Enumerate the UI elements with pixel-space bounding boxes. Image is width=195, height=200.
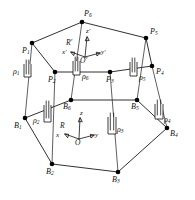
- joint-dot-p6: [80, 20, 85, 25]
- label-axis-x-prime: x': [62, 49, 67, 56]
- label-axis-y: y: [95, 132, 98, 139]
- axis-x-prime-arrow: [71, 52, 75, 55]
- label-node-p1: P1: [22, 47, 30, 56]
- label-axis-z: z: [80, 110, 83, 117]
- joint-dot-p4: [150, 64, 155, 69]
- label-node-p3: P3: [106, 76, 114, 85]
- label-actuator-rho2: ρ2: [33, 117, 40, 126]
- label-frame-r-prime: R': [66, 39, 72, 47]
- base-edge-b2-b3: [52, 164, 118, 172]
- joint-dot-p2: [53, 70, 58, 75]
- joint-dot-b3: [116, 170, 121, 175]
- label-axis-x: x: [56, 132, 59, 139]
- base-frame-axes: [65, 118, 94, 139]
- label-node-p4: P4: [156, 68, 164, 77]
- actuator-glyph-2: [44, 101, 51, 122]
- actuator-glyph-5: [130, 58, 137, 76]
- platform-edge-p2-p1: [32, 43, 55, 72]
- stewart-platform-figure: P1 P2 P3 P4 P5 P6 B1 B2 B3 B4 B5 B6 ρ1 ρ…: [0, 0, 195, 200]
- label-origin-o-prime: O': [80, 57, 87, 65]
- label-node-b5: B5: [131, 103, 139, 112]
- joint-dot-b4: [165, 126, 170, 131]
- label-node-b3: B3: [112, 176, 120, 185]
- label-node-p2: P2: [48, 76, 56, 85]
- joint-dot-p1: [30, 41, 35, 46]
- label-frame-r: R: [60, 122, 65, 130]
- label-origin-o: O: [75, 139, 80, 147]
- joint-dot-b2: [50, 162, 55, 167]
- axis-z-line: [79, 118, 80, 139]
- actuator-glyph-3: [108, 113, 116, 134]
- legs-group: [25, 22, 167, 172]
- label-node-p6: P6: [84, 10, 92, 19]
- label-node-b4: B4: [170, 130, 178, 139]
- label-actuator-rho6: ρ6: [82, 73, 89, 82]
- platform-edge-p6-p5: [82, 22, 146, 38]
- label-node-b1: B1: [14, 122, 22, 131]
- base-edge-b3-b4: [118, 128, 167, 172]
- actuator-glyph-4: [155, 100, 163, 119]
- label-node-b2: B2: [46, 168, 54, 177]
- diagram-canvas: [0, 0, 195, 200]
- label-node-b6: B6: [63, 103, 71, 112]
- platform-edge-p1-p6: [32, 22, 82, 43]
- label-actuator-rho5: ρ5: [139, 74, 146, 83]
- label-actuator-rho3: ρ3: [117, 126, 124, 135]
- leg-line-5: [137, 38, 146, 100]
- joint-dot-p5: [144, 36, 149, 41]
- label-actuator-rho4: ρ4: [164, 116, 171, 125]
- label-node-p5: P5: [150, 28, 158, 37]
- label-axis-z-prime: z': [86, 28, 90, 35]
- joint-dot-b1: [23, 116, 28, 121]
- axis-y-arrow: [90, 134, 94, 137]
- axis-x-arrow: [65, 134, 69, 137]
- joint-dot-b6: [69, 98, 74, 103]
- platform-edge-p5-p4: [146, 38, 152, 66]
- label-actuator-rho1: ρ1: [13, 68, 20, 77]
- upper-frame-axes: [71, 37, 100, 57]
- joint-dot-p3: [108, 70, 113, 75]
- label-axis-y-prime: y': [101, 49, 106, 56]
- leg-line-2: [52, 72, 55, 164]
